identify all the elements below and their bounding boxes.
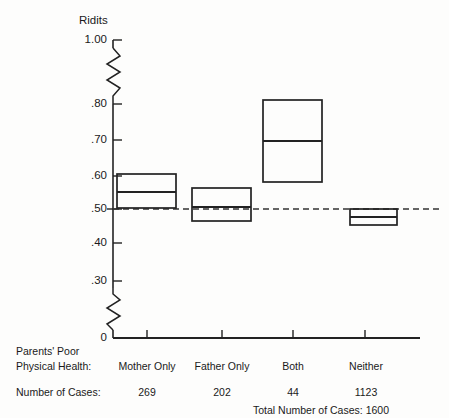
case-count-neither: 1123 <box>330 386 402 398</box>
x-label-both: Both <box>258 360 328 372</box>
x-label-neither: Neither <box>330 360 402 372</box>
y-tick-label-.50: .50 <box>65 202 107 214</box>
x-label-mother-only: Mother Only <box>107 360 187 372</box>
case-count-mother-only: 269 <box>107 386 187 398</box>
x-label-father-only: Father Only <box>182 360 262 372</box>
number-of-cases-label: Number of Cases: <box>16 386 101 398</box>
box-father-only <box>192 188 251 221</box>
y-tick-label-.30: .30 <box>65 274 107 286</box>
box-mother-only <box>117 174 176 208</box>
case-count-both: 44 <box>258 386 328 398</box>
y-tick-label-.60: .60 <box>65 169 107 181</box>
axis-break-upper-icon <box>107 48 120 104</box>
y-tick-label-.70: .70 <box>65 133 107 145</box>
y-tick-label-0: 0 <box>65 331 107 343</box>
group-label-line1: Parents' Poor <box>16 345 79 357</box>
axis-break-lower-icon <box>107 288 120 330</box>
box-neither <box>350 209 397 225</box>
box-both <box>263 100 322 182</box>
y-axis-title: Ridits <box>79 14 108 26</box>
group-label-line2: Physical Health: <box>16 360 91 372</box>
y-tick-label-1.00: 1.00 <box>65 33 107 45</box>
y-tick-label-.80: .80 <box>65 97 107 109</box>
case-count-father-only: 202 <box>182 386 262 398</box>
y-tick-label-.40: .40 <box>65 236 107 248</box>
total-cases-label: Total Number of Cases: 1600 <box>253 404 389 416</box>
